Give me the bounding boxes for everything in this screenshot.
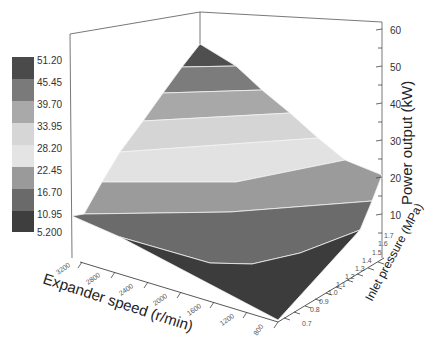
colorbar-swatch-2 xyxy=(12,79,34,101)
surface xyxy=(72,44,382,320)
pressure-tick-1.5: 1.5 xyxy=(372,249,382,256)
surface-plot: 3200 2800 2400 2000 1600 1200 800 Expand… xyxy=(0,0,432,353)
pressure-tick-1.0: 1.0 xyxy=(328,289,338,296)
colorbar-swatch-6 xyxy=(12,167,34,189)
speed-tick-1600: 1600 xyxy=(186,302,203,317)
pressure-tick-0.9: 0.9 xyxy=(319,298,329,305)
colorbar-swatch-5 xyxy=(12,145,34,167)
colorbar-label: 10.95 xyxy=(37,209,62,220)
pressure-tick-1.2: 1.2 xyxy=(345,273,355,280)
colorbar-label: 51.20 xyxy=(37,55,62,66)
speed-tick-800: 800 xyxy=(252,323,264,337)
colorbar-label: 5.200 xyxy=(37,227,62,238)
colorbar-label: 16.70 xyxy=(37,187,62,198)
pressure-tick-1.1: 1.1 xyxy=(336,281,346,288)
pressure-tick-1.3: 1.3 xyxy=(355,265,365,272)
colorbar-swatch-8 xyxy=(12,211,34,232)
band-45-51 xyxy=(182,44,236,67)
power-axis-title: Power output (kW) xyxy=(398,81,415,205)
pressure-tick-0.8: 0.8 xyxy=(310,306,320,313)
power-tick-50: 50 xyxy=(390,62,402,73)
colorbar-swatch-1 xyxy=(12,57,34,79)
pressure-tick-1.7: 1.7 xyxy=(384,232,394,239)
band-39-45 xyxy=(163,66,262,93)
power-tick-10: 10 xyxy=(390,210,402,221)
power-axis-ticks xyxy=(376,29,382,233)
power-tick-60: 60 xyxy=(390,25,402,36)
colorbar-label: 33.95 xyxy=(37,121,62,132)
pressure-tick-1.6: 1.6 xyxy=(378,240,388,247)
colorbar-swatch-4 xyxy=(12,123,34,145)
colorbar-label: 39.70 xyxy=(37,99,62,110)
colorbar-label: 45.45 xyxy=(37,77,62,88)
speed-tick-1200: 1200 xyxy=(219,312,236,327)
colorbar-swatch-7 xyxy=(12,189,34,211)
speed-axis-title: Expander speed (r/min) xyxy=(41,270,195,335)
colorbar: 51.20 45.45 39.70 33.95 28.20 22.45 16.7… xyxy=(12,55,62,238)
colorbar-swatch-3 xyxy=(12,101,34,123)
pressure-tick-1.4: 1.4 xyxy=(362,257,372,264)
pressure-tick-0.7: 0.7 xyxy=(302,320,312,327)
colorbar-label: 22.45 xyxy=(37,165,62,176)
colorbar-label: 28.20 xyxy=(37,143,62,154)
